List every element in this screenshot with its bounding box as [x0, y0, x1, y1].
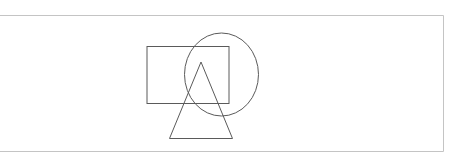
- diagram-canvas: [0, 0, 465, 156]
- background: [0, 0, 465, 156]
